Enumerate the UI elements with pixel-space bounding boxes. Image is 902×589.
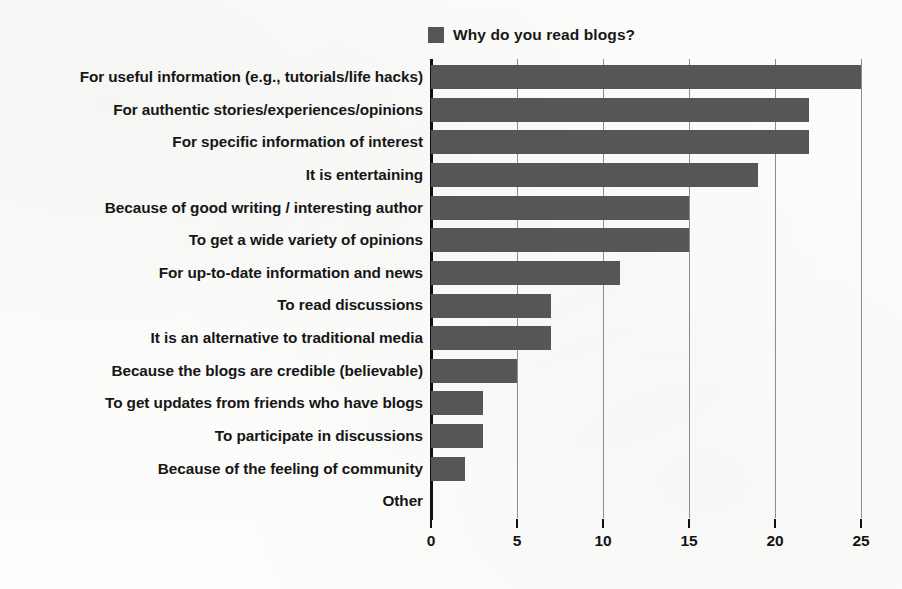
- x-tick-label: 5: [487, 532, 547, 550]
- gridline: [861, 59, 862, 518]
- bar[interactable]: [431, 326, 551, 350]
- x-tick-label: 20: [745, 532, 805, 550]
- bar[interactable]: [431, 65, 861, 89]
- category-axis-labels: For useful information (e.g., tutorials/…: [10, 61, 423, 518]
- category-label: Other: [10, 485, 423, 518]
- category-label: Because of the feeling of community: [10, 453, 423, 486]
- bar[interactable]: [431, 228, 689, 252]
- bar-row[interactable]: [431, 126, 861, 159]
- bar-row[interactable]: [431, 355, 861, 388]
- category-label: For up-to-date information and news: [10, 257, 423, 290]
- bar-row[interactable]: [431, 290, 861, 323]
- x-tick-label: 0: [401, 532, 461, 550]
- category-label: For useful information (e.g., tutorials/…: [10, 61, 423, 94]
- bar-row[interactable]: [431, 159, 861, 192]
- category-label: For authentic stories/experiences/opinio…: [10, 94, 423, 127]
- category-label: Because of good writing / interesting au…: [10, 192, 423, 225]
- bar[interactable]: [431, 457, 465, 481]
- x-tick-mark: [430, 519, 432, 528]
- bar-row[interactable]: [431, 94, 861, 127]
- bar-row[interactable]: [431, 257, 861, 290]
- bar[interactable]: [431, 294, 551, 318]
- x-tick-mark: [774, 519, 776, 528]
- category-label: Because the blogs are credible (believab…: [10, 355, 423, 388]
- plot-area: [431, 61, 861, 518]
- bar[interactable]: [431, 163, 758, 187]
- bar[interactable]: [431, 359, 517, 383]
- x-tick-mark: [516, 519, 518, 528]
- legend-square-icon: [428, 27, 444, 43]
- x-tick-mark: [602, 519, 604, 528]
- chart-page: Why do you read blogs? For useful inform…: [0, 0, 902, 589]
- bar-row[interactable]: [431, 224, 861, 257]
- category-label: For specific information of interest: [10, 126, 423, 159]
- category-label: To read discussions: [10, 289, 423, 322]
- bar[interactable]: [431, 261, 620, 285]
- category-label: To get a wide variety of opinions: [10, 224, 423, 257]
- category-label: It is an alternative to traditional medi…: [10, 322, 423, 355]
- bar[interactable]: [431, 130, 809, 154]
- x-tick-label: 15: [659, 532, 719, 550]
- category-label: To get updates from friends who have blo…: [10, 387, 423, 420]
- bar[interactable]: [431, 391, 483, 415]
- bar[interactable]: [431, 424, 483, 448]
- x-tick-label: 10: [573, 532, 633, 550]
- x-tick-mark: [860, 519, 862, 528]
- bar-row[interactable]: [431, 387, 861, 420]
- bar-row[interactable]: [431, 61, 861, 94]
- bar-row[interactable]: [431, 192, 861, 225]
- bar[interactable]: [431, 196, 689, 220]
- chart-legend: Why do you read blogs?: [428, 26, 635, 44]
- bar-row[interactable]: [431, 420, 861, 453]
- x-tick-mark: [688, 519, 690, 528]
- category-label: It is entertaining: [10, 159, 423, 192]
- x-tick-label: 25: [831, 532, 891, 550]
- legend-label: Why do you read blogs?: [453, 26, 635, 44]
- bar-row[interactable]: [431, 322, 861, 355]
- category-label: To participate in discussions: [10, 420, 423, 453]
- bar-row[interactable]: [431, 485, 861, 518]
- bar-row[interactable]: [431, 453, 861, 486]
- bar[interactable]: [431, 98, 809, 122]
